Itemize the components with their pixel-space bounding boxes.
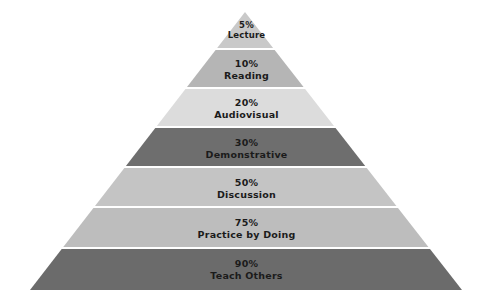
pyramid-tier-practice-by-doing <box>0 208 493 247</box>
pyramid-tier-discussion <box>0 168 493 206</box>
pyramid-tier-teach-others <box>0 249 493 290</box>
pyramid-tier-reading <box>0 50 493 87</box>
tier-band-group <box>0 12 493 290</box>
pyramid-tier-lecture <box>0 12 493 48</box>
pyramid-tier-demonstrative <box>0 128 493 166</box>
learning-pyramid-figure: 5%Lecture10%Reading20%Audiovisual30%Demo… <box>0 0 493 302</box>
pyramid-tier-audiovisual <box>0 89 493 126</box>
pyramid-chart <box>0 0 493 302</box>
